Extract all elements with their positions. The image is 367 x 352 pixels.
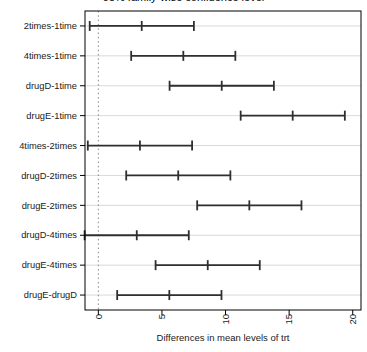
y-axis-label: drugE-drugD: [24, 290, 78, 300]
y-axis-label: 4times-1time: [24, 51, 77, 61]
x-axis-tick-label: 0: [93, 314, 104, 319]
x-axis-title: Differences in mean levels of trt: [85, 332, 361, 343]
y-axis-label: drugE-1time: [26, 111, 77, 121]
y-axis-label: 4times-2times: [19, 141, 77, 151]
y-axis-label: drugE-4times: [22, 260, 78, 270]
x-axis-tick-label: 20: [347, 314, 358, 325]
y-axis-label: drugD-4times: [21, 230, 77, 240]
y-axis-label: drugE-2times: [22, 201, 78, 211]
confidence-interval-chart: 2times-1time4times-1timedrugD-1timedrugE…: [0, 0, 367, 352]
tukey-hsd-figure: 95% family-wise confidence level 2times-…: [0, 0, 367, 352]
y-axis-label: 2times-1time: [24, 21, 77, 31]
y-axis-label: drugD-1time: [26, 81, 77, 91]
x-axis-tick-label: 15: [283, 314, 294, 325]
y-axis-label: drugD-2times: [21, 171, 77, 181]
x-axis-tick-label: 5: [156, 314, 167, 319]
x-axis-tick-label: 10: [220, 314, 231, 325]
